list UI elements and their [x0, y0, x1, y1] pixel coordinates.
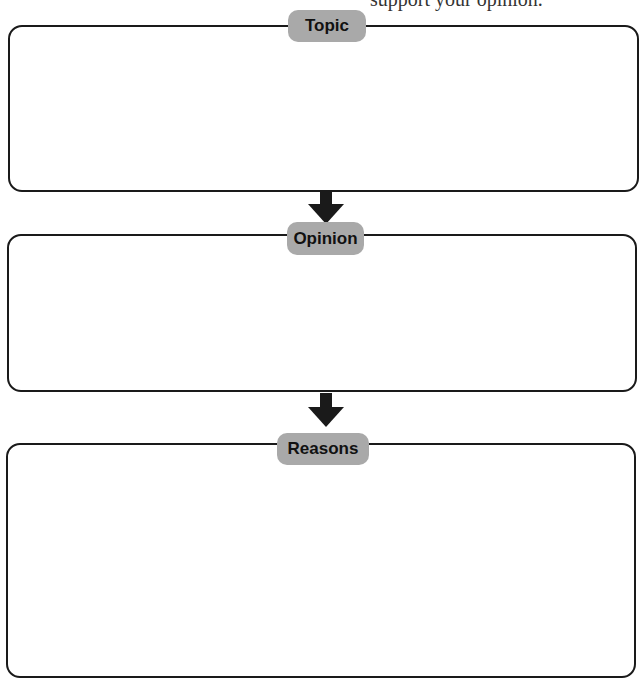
- clipped-heading-text: support your opinion.: [370, 0, 543, 11]
- arrow-down-icon: [308, 190, 344, 224]
- opinion-box[interactable]: [7, 234, 637, 392]
- topic-label: Topic: [288, 10, 366, 42]
- topic-box[interactable]: [8, 25, 639, 192]
- reasons-box[interactable]: [6, 443, 636, 678]
- reasons-label: Reasons: [277, 433, 369, 465]
- arrow-down-icon: [308, 393, 344, 427]
- opinion-label: Opinion: [287, 222, 364, 255]
